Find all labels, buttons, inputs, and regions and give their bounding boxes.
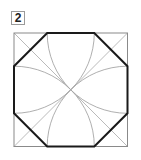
octagon-construction-diagram: [0, 0, 141, 160]
